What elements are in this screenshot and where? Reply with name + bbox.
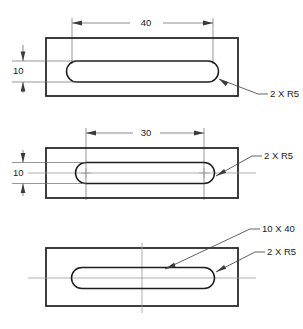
note-slot-size: 10 X 40 [262, 223, 295, 234]
dimension-value-30: 30 [141, 127, 152, 138]
dimension-value-10: 10 [13, 167, 24, 178]
note-radius: 2 X R5 [270, 88, 299, 99]
dimension-value-40: 40 [141, 17, 152, 28]
dimension-value-10: 10 [13, 65, 24, 76]
note-radius: 2 X R5 [264, 150, 293, 161]
engineering-drawing: 40 10 2 X R5 30 [0, 0, 303, 329]
note-radius: 2 X R5 [267, 246, 296, 257]
